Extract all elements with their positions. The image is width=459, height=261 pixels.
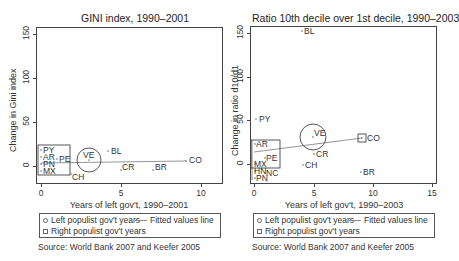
svg-text:CH: CH [72,172,84,182]
gini-x-axis-label: Years of left gov't, 1990–2001 [70,200,188,210]
square-marker-icon [257,229,262,234]
gini-x-tick-10: 10 [196,188,205,198]
circle-marker-icon [257,218,262,223]
line-marker-icon [349,220,361,221]
legend-left-populist: Left populist gov't years [43,215,140,225]
svg-text:BL: BL [111,146,122,156]
svg-text:PY: PY [259,114,271,124]
ratio-panel: Ratio 10th decile over 1st decile, 1990–… [225,0,450,261]
square-marker-icon [43,229,48,234]
ratio-x-tick-5: 5 [312,188,317,198]
legend-fitted: Fitted values line [135,215,214,225]
svg-text:MX: MX [43,166,56,176]
ratio-source-note: Source: World Bank 2007 and Keefer 2005 [252,242,414,252]
ratio-x-axis-label: Years of left gov't, 1990–2003 [285,200,403,210]
legend-fitted: Fitted values line [349,215,428,225]
gini-legend: Left populist gov't years Fitted values … [39,213,221,238]
gini-source-note: Source: World Bank 2007 and Keefer 2005 [38,242,200,252]
gini-panel: GINI index, 1990–2001 Change in Gini ind… [0,0,225,261]
svg-text:NC: NC [266,168,278,178]
circle-marker-icon [43,218,48,223]
ratio-x-tick-10: 10 [368,188,377,198]
svg-text:PE: PE [59,154,71,164]
legend-right-populist: Right populist gov't years [43,226,146,236]
svg-text:CH: CH [305,160,317,170]
svg-text:BL: BL [304,26,315,36]
legend-right-populist: Right populist gov't years [257,226,360,236]
line-marker-icon [135,220,147,221]
svg-text:BR: BR [363,167,375,177]
svg-text:AR: AR [256,139,268,149]
legend-left-populist: Left populist gov't years [257,215,354,225]
gini-x-tick-0: 0 [39,188,44,198]
svg-text:PN: PN [256,173,268,183]
gini-x-tick-5: 5 [119,188,124,198]
ratio-scatter: BL PY VE CO AR CR PE MX CH HN BR NC PN [225,0,450,200]
gini-scatter: PY AR PN MX PE CH VE BL CR BR CO [0,0,225,200]
svg-text:VE: VE [83,150,95,160]
svg-text:CR: CR [122,162,134,172]
svg-text:CR: CR [316,149,328,159]
svg-text:VE: VE [314,128,326,138]
svg-text:PE: PE [266,153,278,163]
ratio-x-tick-15: 15 [427,188,436,198]
svg-text:CO: CO [189,155,202,165]
svg-text:BR: BR [155,162,167,172]
svg-text:CO: CO [367,133,380,143]
ratio-legend: Left populist gov't years Fitted values … [253,213,435,238]
ratio-x-tick-0: 0 [252,188,257,198]
